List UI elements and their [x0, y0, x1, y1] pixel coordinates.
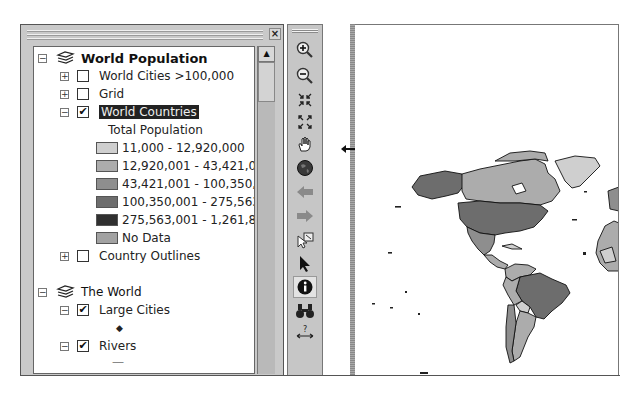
expand-icon[interactable]: + — [60, 90, 69, 99]
layer-label: Country Outlines — [99, 249, 200, 263]
legend-class: 12,920,001 - 43,421,0 — [96, 157, 255, 175]
layer-grid[interactable]: + Grid — [60, 85, 124, 103]
layer-checkbox[interactable] — [77, 250, 89, 262]
group-the-world[interactable]: − The World — [38, 283, 142, 301]
layer-tree: − World Population + World Cities >100,0… — [33, 46, 255, 374]
full-extent-button[interactable] — [293, 157, 317, 179]
point-symbol: ◆ — [116, 319, 123, 337]
frame-bottom-border — [20, 375, 620, 376]
select-elements-pointer-icon — [298, 255, 312, 273]
legend-class: 43,421,001 - 100,350, — [96, 175, 255, 193]
legend-swatch — [96, 178, 118, 190]
layers-icon — [55, 51, 75, 65]
back-arrow-icon — [296, 184, 314, 200]
legend-class: 100,350,001 - 275,563 — [96, 193, 255, 211]
select-features-button[interactable] — [293, 229, 317, 251]
layer-rivers[interactable]: − ✔ Rivers — [60, 337, 136, 355]
table-of-contents-panel: × − World Population + World Cities >100… — [20, 24, 284, 376]
layer-large-cities[interactable]: − ✔ Large Cities — [60, 301, 170, 319]
collapse-icon[interactable]: − — [60, 108, 69, 117]
zoom-in-icon — [296, 41, 314, 59]
world-countries-map — [355, 25, 619, 376]
layer-checkbox[interactable]: ✔ — [77, 106, 89, 118]
back-button[interactable] — [293, 181, 317, 203]
fixed-zoom-out-button[interactable] — [293, 111, 317, 133]
select-elements-button[interactable] — [293, 253, 317, 275]
layer-label: Grid — [99, 87, 124, 101]
find-button[interactable] — [293, 300, 317, 322]
legend-swatch — [96, 214, 118, 226]
group-label: The World — [81, 285, 142, 299]
pan-button[interactable] — [293, 133, 317, 155]
fixed-zoom-in-icon — [298, 93, 312, 107]
collapse-icon[interactable]: − — [38, 54, 47, 63]
layer-label: World Cities >100,000 — [99, 69, 234, 83]
layer-checkbox[interactable] — [77, 88, 89, 100]
scroll-up-button[interactable]: ▲ — [258, 46, 275, 62]
layer-checkbox[interactable]: ✔ — [77, 340, 89, 352]
legend-swatch — [96, 196, 118, 208]
legend-class: No Data — [96, 229, 171, 247]
toolbar-grip[interactable] — [292, 29, 318, 33]
tools-toolbar: ? — [287, 24, 323, 376]
layers-icon — [55, 285, 75, 299]
layer-checkbox[interactable] — [77, 70, 89, 82]
legend-field-name: Total Population — [108, 121, 203, 139]
group-label: World Population — [81, 51, 208, 66]
collapse-icon[interactable]: − — [38, 288, 47, 297]
layer-world-countries[interactable]: − ✔ World Countries — [60, 103, 199, 121]
identify-icon — [296, 278, 314, 296]
fixed-zoom-out-icon — [298, 115, 312, 129]
layer-label: Large Cities — [99, 303, 170, 317]
identify-button[interactable] — [293, 276, 317, 298]
map-view[interactable] — [355, 24, 619, 376]
select-features-icon — [295, 231, 315, 249]
layer-country-outlines[interactable]: + Country Outlines — [60, 247, 200, 265]
zoom-in-button[interactable] — [293, 39, 317, 61]
measure-icon: ? — [295, 324, 315, 340]
svg-text:?: ? — [303, 325, 307, 334]
forward-arrow-icon — [296, 208, 314, 224]
layer-label: Rivers — [99, 339, 136, 353]
fixed-zoom-in-button[interactable] — [293, 89, 317, 111]
layer-label-selected: World Countries — [99, 105, 199, 119]
zoom-out-icon — [296, 67, 314, 85]
legend-class: 11,000 - 12,920,000 — [96, 139, 245, 157]
vertical-scrollbar[interactable]: ▲ — [257, 46, 275, 374]
close-button[interactable]: × — [269, 28, 281, 40]
find-binoculars-icon — [295, 303, 315, 319]
zoom-out-button[interactable] — [293, 65, 317, 87]
expand-icon[interactable]: + — [60, 72, 69, 81]
legend-class: 275,563,001 - 1,261,8 — [96, 211, 255, 229]
collapse-icon[interactable]: − — [60, 342, 69, 351]
legend-swatch — [96, 160, 118, 172]
group-world-population[interactable]: − World Population — [38, 49, 208, 67]
forward-button[interactable] — [293, 205, 317, 227]
panel-grip[interactable] — [27, 30, 263, 41]
pan-hand-icon — [296, 135, 314, 153]
legend-swatch — [96, 142, 118, 154]
expand-icon[interactable]: + — [60, 252, 69, 261]
scroll-thumb[interactable] — [258, 62, 275, 102]
layer-world-cities[interactable]: + World Cities >100,000 — [60, 67, 234, 85]
line-symbol: — — [112, 353, 124, 371]
layer-checkbox[interactable]: ✔ — [77, 304, 89, 316]
legend-swatch — [96, 232, 118, 244]
measure-button[interactable]: ? — [293, 324, 317, 340]
full-extent-globe-icon — [296, 159, 314, 177]
collapse-icon[interactable]: − — [60, 306, 69, 315]
